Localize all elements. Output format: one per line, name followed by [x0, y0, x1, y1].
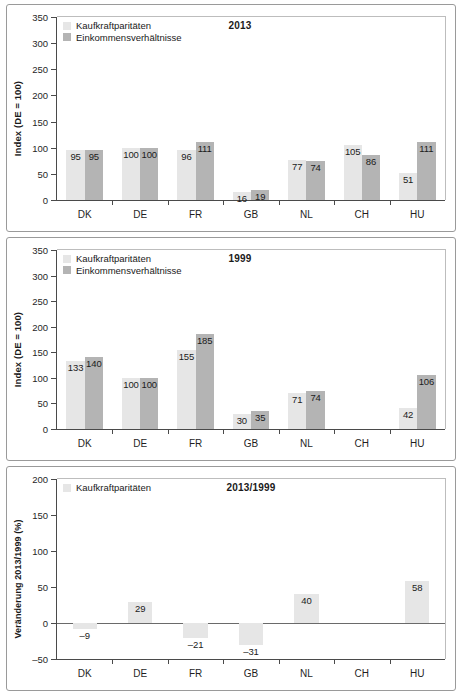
x-axis-tick-label: FR — [189, 209, 202, 220]
bar-value-label: 96 — [181, 151, 191, 162]
x-axis-tick-label: FR — [189, 668, 202, 679]
x-axis-tick — [168, 429, 169, 434]
y-axis-tick-label: 50 — [13, 168, 48, 179]
x-axis-tick-label: DE — [133, 209, 147, 220]
y-axis-tick-label: 200 — [13, 321, 48, 332]
plot-area: –50050100150200DK–9DE29FR–21GB–31NL40CHH… — [56, 479, 445, 660]
x-axis-tick — [168, 200, 169, 205]
bar-value-label: 95 — [70, 151, 80, 162]
x-axis-tick — [279, 659, 280, 664]
x-axis-tick-label: GB — [244, 438, 258, 449]
bar-value-label: 30 — [237, 415, 247, 426]
y-axis-tick — [51, 327, 57, 328]
x-axis-tick-label: GB — [244, 668, 258, 679]
x-axis-tick — [223, 429, 224, 434]
x-axis-tick-label: NL — [300, 668, 313, 679]
plot-area: 050100150200250300350DK9595DE100100FR961… — [56, 17, 445, 201]
x-axis-tick-label: DK — [78, 438, 92, 449]
chart-panel-1999: Index (DE = 100) 1999 Kaufkraftparitäten… — [6, 237, 456, 461]
y-axis-tick-label: 350 — [13, 245, 48, 256]
y-axis-tick — [51, 148, 57, 149]
x-axis-tick-label: CH — [355, 668, 369, 679]
y-axis-tick — [51, 174, 57, 175]
x-axis-tick-label: CH — [355, 438, 369, 449]
y-axis-tick — [51, 659, 57, 660]
y-axis-tick — [51, 479, 57, 480]
bar-value-label: 71 — [292, 394, 302, 405]
bar-value-label: 58 — [412, 582, 422, 593]
y-axis-tick — [51, 515, 57, 516]
x-axis-tick — [334, 429, 335, 434]
y-axis-tick — [51, 43, 57, 44]
y-axis-tick-label: 0 — [13, 195, 48, 206]
y-axis-tick-label: 200 — [13, 474, 48, 485]
chart-panel-2013: Index (DE = 100) 2013 Kaufkraftparitäten… — [6, 4, 456, 232]
bar-value-label: 42 — [403, 409, 413, 420]
x-axis-tick-label: CH — [355, 209, 369, 220]
bar-value-label: 111 — [198, 143, 212, 154]
x-axis-tick — [390, 429, 391, 434]
x-axis-tick — [334, 659, 335, 664]
x-axis-tick — [223, 659, 224, 664]
bar-value-label: –9 — [80, 630, 90, 641]
x-axis-tick-label: DE — [133, 438, 147, 449]
bar-value-label: 51 — [403, 174, 413, 185]
y-axis-tick — [51, 301, 57, 302]
y-axis-tick — [51, 276, 57, 277]
x-axis-tick-label: FR — [189, 438, 202, 449]
x-axis-tick — [390, 659, 391, 664]
bar-value-label: 100 — [123, 379, 139, 390]
bar-value-label: 100 — [142, 149, 158, 160]
y-axis-tick — [51, 200, 57, 201]
bar-value-label: 140 — [86, 358, 102, 369]
x-axis-tick — [279, 429, 280, 434]
y-axis-tick-label: 50 — [13, 398, 48, 409]
x-axis-tick-label: DK — [78, 668, 92, 679]
bar-value-label: 77 — [292, 161, 302, 172]
x-axis-tick — [112, 200, 113, 205]
bar-value-label: –31 — [243, 646, 259, 657]
y-axis-tick-label: 50 — [13, 582, 48, 593]
x-axis-tick — [168, 659, 169, 664]
y-axis-tick-label: 100 — [13, 142, 48, 153]
x-axis-tick-label: HU — [410, 668, 424, 679]
bar — [239, 623, 263, 645]
y-axis-tick — [51, 250, 57, 251]
plot-area: 050100150200250300350DK133140DE100100FR1… — [56, 250, 445, 430]
bar-value-label: 100 — [123, 149, 139, 160]
bar-value-label: 40 — [301, 595, 311, 606]
x-axis-tick — [112, 659, 113, 664]
x-axis-tick-label: DK — [78, 209, 92, 220]
x-axis-tick-label: NL — [300, 438, 313, 449]
y-axis-tick-label: 150 — [13, 116, 48, 127]
bar — [183, 623, 207, 638]
x-axis-tick — [279, 200, 280, 205]
bar-value-label: –21 — [188, 639, 204, 650]
bar-value-label: 95 — [89, 151, 99, 162]
bar-value-label: 16 — [237, 193, 247, 204]
x-axis-tick — [223, 200, 224, 205]
bar-value-label: 86 — [366, 156, 376, 167]
bar-value-label: 35 — [255, 412, 265, 423]
x-axis-tick-label: DE — [133, 668, 147, 679]
x-axis-tick-label: HU — [410, 438, 424, 449]
x-axis-tick-label: GB — [244, 209, 258, 220]
y-axis-tick-label: 350 — [13, 12, 48, 23]
bar-value-label: 74 — [310, 392, 320, 403]
y-axis-tick — [51, 352, 57, 353]
y-axis-tick — [51, 122, 57, 123]
y-axis-tick-label: 250 — [13, 296, 48, 307]
x-axis-tick — [334, 200, 335, 205]
y-axis-tick — [51, 551, 57, 552]
y-axis-tick-label: 150 — [13, 510, 48, 521]
x-axis-tick — [390, 200, 391, 205]
x-axis-tick-label: NL — [300, 209, 313, 220]
bar-value-label: 19 — [255, 191, 265, 202]
y-axis-tick — [51, 378, 57, 379]
bar-value-label: 155 — [179, 351, 195, 362]
y-axis-tick-label: 200 — [13, 90, 48, 101]
y-axis-tick-label: –50 — [13, 654, 48, 665]
bar-value-label: 74 — [310, 162, 320, 173]
y-axis-tick-label: 100 — [13, 372, 48, 383]
y-axis-tick — [51, 403, 57, 404]
